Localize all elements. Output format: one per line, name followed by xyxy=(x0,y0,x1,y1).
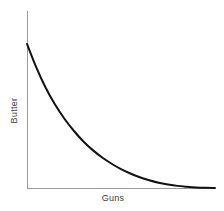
chart-background xyxy=(0,0,224,211)
plot-area xyxy=(0,0,224,211)
y-axis-label-text: Butter xyxy=(11,97,20,123)
guns-and-butter-chart: Butter Guns xyxy=(0,0,224,211)
x-axis-label: Guns xyxy=(27,194,199,203)
y-axis-label: Butter xyxy=(0,89,30,131)
